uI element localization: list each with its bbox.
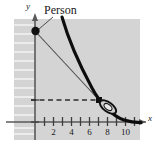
- person-label: Person: [44, 4, 77, 16]
- graph-figure: Person y x 246810: [0, 0, 158, 152]
- x-tick-label-6: 6: [87, 128, 92, 137]
- y-axis-label: y: [26, 2, 30, 11]
- x-tick-label-2: 2: [51, 128, 56, 137]
- x-tick-label-8: 8: [105, 128, 110, 137]
- x-tick-label-10: 10: [121, 128, 130, 137]
- graph-svg: [0, 0, 158, 152]
- x-tick-label-4: 4: [69, 128, 74, 137]
- x-axis-label: x: [148, 114, 152, 123]
- person-point: [31, 27, 39, 35]
